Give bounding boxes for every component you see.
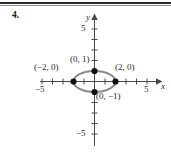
figure-container: 4. xyxy=(0,0,171,158)
x-tick-label-5: 5 xyxy=(144,85,149,94)
point-neg-two-zero xyxy=(70,78,76,84)
y-tick-label-neg5: −5 xyxy=(76,129,86,138)
y-tick-label-5: 5 xyxy=(81,24,86,33)
x-tick-label-neg5: −5 xyxy=(35,85,45,94)
point-label-two-zero: (2, 0) xyxy=(115,63,135,72)
point-two-zero xyxy=(112,78,118,84)
point-label-zero-neg-one: (0, −1) xyxy=(96,92,121,101)
point-label-zero-one: (0, 1) xyxy=(70,55,90,64)
point-zero-one xyxy=(91,68,97,74)
y-axis-arrow-icon xyxy=(91,14,98,21)
point-label-neg-two-zero: (−2, 0) xyxy=(34,63,59,72)
x-axis-letter-label: x xyxy=(161,82,165,91)
y-axis-letter-label: y xyxy=(86,13,90,22)
